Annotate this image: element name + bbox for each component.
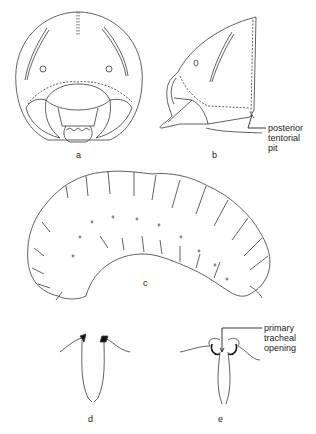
- panel-label-d: d: [88, 414, 93, 424]
- callout-b-line-3: pit: [268, 143, 303, 153]
- panel-label-a: a: [76, 150, 81, 160]
- panel-label-c: c: [143, 278, 148, 288]
- panel-label-b: b: [212, 150, 217, 160]
- callout-posterior-tentorial-pit: posterior tentorial pit: [268, 123, 303, 153]
- callout-b-line-1: posterior: [268, 123, 303, 133]
- panel-b-head-lateral: [160, 17, 262, 133]
- panel-label-e: e: [218, 414, 223, 424]
- panel-c-larva: [28, 171, 270, 300]
- panel-a-head-frontal: [16, 12, 143, 142]
- callout-primary-tracheal-opening: primary tracheal opening: [264, 323, 296, 353]
- figure-illustration: [0, 0, 316, 434]
- panel-d-spiracle: [60, 334, 130, 402]
- callout-b-line-2: tentorial: [268, 133, 303, 143]
- callout-e-line-3: opening: [264, 343, 296, 353]
- callout-e-line-2: tracheal: [264, 333, 296, 343]
- callout-leader-b: [248, 115, 266, 128]
- callout-e-line-1: primary: [264, 323, 296, 333]
